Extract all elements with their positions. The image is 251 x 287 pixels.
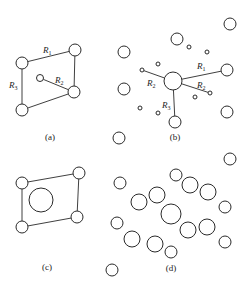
- node-circle: [224, 18, 236, 30]
- node-circle: [71, 211, 83, 223]
- node-circle: [221, 106, 233, 118]
- node-circle: [118, 83, 130, 95]
- node-circle: [219, 236, 231, 248]
- node-circle: [221, 64, 233, 76]
- distance-label: R3: [161, 100, 171, 111]
- node-circle: [131, 194, 147, 210]
- node-circle: [111, 217, 123, 229]
- node-circle: [171, 33, 183, 45]
- node-circle: [138, 106, 142, 110]
- node-circle: [106, 264, 118, 276]
- node-circle: [187, 45, 191, 49]
- edge-c1-c2: [28, 174, 73, 182]
- node-circle: [114, 177, 126, 189]
- node-circle: [199, 219, 215, 235]
- distance-label: R2: [54, 75, 64, 86]
- node-circle: [156, 111, 160, 115]
- figure-canvas: R1R2R3(a) R1R2R2R3(b) (c) (d): [0, 0, 251, 287]
- center-node: [164, 72, 182, 90]
- distance-label: R2: [146, 78, 156, 89]
- edge-c2-c3: [77, 179, 78, 211]
- distance-label: R3: [8, 80, 18, 91]
- node-circle: [69, 44, 81, 56]
- four-panel-diagram: R1R2R3(a) R1R2R2R3(b) (c) (d): [0, 0, 251, 287]
- node-circle: [140, 68, 144, 72]
- node-circle: [205, 50, 209, 54]
- node-circle: [113, 132, 125, 144]
- distance-label: R1: [42, 45, 52, 56]
- node-circle: [37, 75, 44, 82]
- distance-label: R1: [196, 61, 206, 72]
- edge-a4-a5: [28, 94, 69, 108]
- node-circle: [180, 222, 196, 238]
- node-circle: [16, 104, 28, 116]
- node-circle: [16, 57, 28, 69]
- node-circle: [170, 169, 182, 181]
- node-circle: [16, 177, 28, 189]
- panel-caption-c: (c): [42, 262, 52, 272]
- node-circle: [182, 177, 198, 193]
- panel-caption-a: (a): [45, 132, 55, 142]
- node-circle: [200, 184, 216, 200]
- node-circle: [73, 167, 85, 179]
- node-circle: [68, 86, 80, 98]
- node-circle: [165, 246, 177, 258]
- node-circle: [147, 236, 163, 252]
- edge-b0-b7: [144, 71, 165, 78]
- node-circle: [124, 231, 140, 247]
- node-circle: [149, 187, 165, 203]
- node-circle: [161, 204, 181, 224]
- edge-b0-b8: [182, 71, 221, 79]
- panel-caption-d: (d): [166, 263, 177, 273]
- panel-d: (d): [106, 153, 236, 276]
- edge-c3-c4: [28, 218, 71, 226]
- node-circle: [224, 153, 236, 165]
- node-circle: [208, 91, 212, 95]
- panel-a: R1R2R3(a): [8, 44, 81, 142]
- edge-a2-a4: [74, 56, 75, 86]
- node-circle: [16, 221, 28, 233]
- node-circle: [29, 188, 53, 212]
- panel-c: (c): [16, 167, 85, 272]
- node-circle: [156, 62, 160, 66]
- panel-caption-b: (b): [170, 132, 181, 142]
- node-circle: [193, 95, 197, 99]
- node-circle: [169, 116, 181, 128]
- panel-b: R1R2R2R3(b): [113, 18, 236, 144]
- distance-label: R2: [196, 80, 206, 91]
- edge-b0-b14: [173, 90, 174, 116]
- node-circle: [219, 201, 231, 213]
- node-circle: [118, 46, 130, 58]
